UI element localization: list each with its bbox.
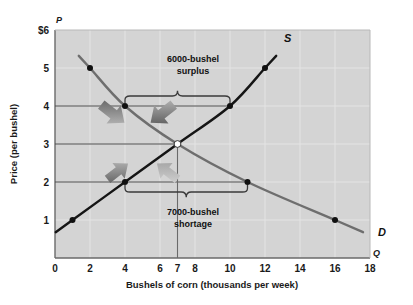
x-tick-16: 16: [329, 263, 341, 274]
y-tick-5: 5: [43, 63, 49, 74]
y-tick-4: 4: [43, 101, 49, 112]
demand-curve-label: D: [378, 226, 386, 238]
x-tick-8: 8: [192, 263, 198, 274]
x-tick-10: 10: [224, 263, 236, 274]
x-tick-4: 4: [122, 263, 128, 274]
surplus-label-line1: 6000-bushel: [167, 54, 219, 64]
y-tick-1: 1: [43, 215, 49, 226]
x-tick-12: 12: [259, 263, 271, 274]
equilibrium-point: [174, 141, 181, 148]
surplus-label-line2: surplus: [177, 66, 210, 76]
figure-root: 0246781012141618 $654321 P Q Bushels of …: [0, 0, 413, 305]
x-tick-7: 7: [175, 263, 181, 274]
x-tick-2: 2: [87, 263, 93, 274]
x-tick-14: 14: [294, 263, 306, 274]
shortage-label-line1: 7000-bushel: [167, 207, 219, 217]
y-tick-2: 2: [43, 177, 49, 188]
x-tick-0: 0: [52, 263, 58, 274]
y-axis-letter: P: [56, 15, 63, 25]
supply-curve-label: S: [284, 32, 292, 44]
x-tick-6: 6: [157, 263, 163, 274]
y-axis-title: Price (per bushel): [8, 104, 19, 184]
x-tick-18: 18: [364, 263, 376, 274]
shortage-label-line2: shortage: [174, 219, 212, 229]
x-axis-title: Bushels of corn (thousands per week): [126, 279, 298, 290]
y-tick-6: $6: [38, 25, 50, 36]
y-tick-3: 3: [43, 139, 49, 150]
supply-demand-chart: 0246781012141618 $654321 P Q Bushels of …: [0, 0, 413, 305]
x-axis-letter: Q: [373, 248, 380, 258]
